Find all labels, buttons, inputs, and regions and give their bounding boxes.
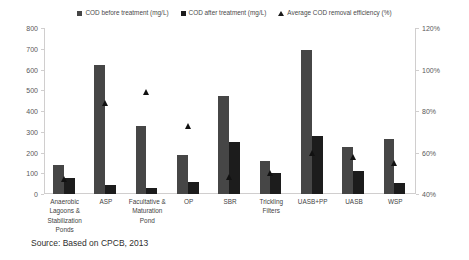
y-axis-right-tick-label: 100% <box>422 66 440 73</box>
bar-groups <box>44 28 416 194</box>
legend-triangle-icon <box>278 11 284 16</box>
bar-group <box>251 28 292 194</box>
y-axis-right-tick <box>416 111 419 112</box>
y-axis-left-tick-label: 0 <box>34 191 38 198</box>
bar-cod-after <box>353 171 364 194</box>
y-axis-right-tick <box>416 194 419 195</box>
y-axis-right-tick <box>416 70 419 71</box>
x-axis-category-label: ASP <box>85 197 126 234</box>
bar-group <box>209 28 250 194</box>
marker-removal-efficiency <box>226 174 232 180</box>
marker-removal-efficiency <box>309 150 315 156</box>
y-axis-left-tick-label: 700 <box>26 45 38 52</box>
y-axis-right-tick <box>416 153 419 154</box>
marker-removal-efficiency <box>61 176 67 182</box>
chart-plot-area: 0100200300400500600700800 40%60%80%100%1… <box>44 28 416 194</box>
bar-group <box>292 28 333 194</box>
bar-cod-after <box>312 136 323 194</box>
y-axis-left-tick-label: 100 <box>26 170 38 177</box>
legend-swatch-square-icon <box>181 11 186 16</box>
bar-group <box>333 28 374 194</box>
bar-cod-after <box>394 183 405 194</box>
bar-group <box>127 28 168 194</box>
bar-cod-after <box>188 182 199 194</box>
chart-legend: COD before treatment (mg/L) COD after tr… <box>0 10 469 16</box>
x-axis-category-label: WSP <box>375 197 416 234</box>
bar-cod-before <box>301 50 312 194</box>
y-axis-left-tick <box>41 194 44 195</box>
legend-label: Average COD removal efficiency (%) <box>287 10 391 16</box>
x-axis-category-label: UASB+PP <box>292 197 333 234</box>
bar-group <box>375 28 416 194</box>
y-axis-right-tick-label: 80% <box>422 108 436 115</box>
marker-removal-efficiency <box>350 154 356 160</box>
y-axis-left-tick-label: 200 <box>26 149 38 156</box>
x-axis-category-label: AnaerobicLagoons &StabilizationPonds <box>44 197 85 234</box>
bar-cod-before <box>260 161 271 194</box>
legend-label: COD before treatment (mg/L) <box>85 10 168 16</box>
source-note: Source: Based on CPCB, 2013 <box>31 238 148 248</box>
x-axis-category-label: TricklingFilters <box>251 197 292 234</box>
bar-cod-after <box>105 185 116 194</box>
y-axis-right-tick-label: 40% <box>422 191 436 198</box>
x-axis-category-label: UASB <box>333 197 374 234</box>
bar-group <box>44 28 85 194</box>
x-axis-category-labels: AnaerobicLagoons &StabilizationPondsASPF… <box>44 197 416 234</box>
marker-removal-efficiency <box>267 170 273 176</box>
y-axis-left-tick-label: 400 <box>26 108 38 115</box>
y-axis-right-tick <box>416 28 419 29</box>
legend-label: COD after treatment (mg/L) <box>189 10 267 16</box>
x-axis-category-label: SBR <box>209 197 250 234</box>
y-axis-left-tick-label: 600 <box>26 66 38 73</box>
y-axis-left-tick-label: 300 <box>26 128 38 135</box>
marker-removal-efficiency <box>143 89 149 95</box>
y-axis-right-tick-label: 120% <box>422 25 440 32</box>
x-axis-category-label: Facultative &MaturationPond <box>127 197 168 234</box>
bar-cod-after <box>270 173 281 194</box>
legend-item-removal-efficiency: Average COD removal efficiency (%) <box>278 10 391 16</box>
bar-cod-before <box>384 139 395 194</box>
bar-cod-before <box>177 155 188 194</box>
marker-removal-efficiency <box>391 160 397 166</box>
bar-group <box>168 28 209 194</box>
x-axis-category-label: OP <box>168 197 209 234</box>
y-axis-left-tick-label: 800 <box>26 25 38 32</box>
y-axis-right-tick-label: 60% <box>422 149 436 156</box>
legend-item-cod-after: COD after treatment (mg/L) <box>181 10 267 16</box>
bar-cod-before <box>94 65 105 194</box>
legend-swatch-square-icon <box>77 11 82 16</box>
bar-cod-after <box>146 188 157 194</box>
legend-item-cod-before: COD before treatment (mg/L) <box>77 10 168 16</box>
marker-removal-efficiency <box>185 123 191 129</box>
y-axis-left-tick-label: 500 <box>26 87 38 94</box>
marker-removal-efficiency <box>102 100 108 106</box>
bar-cod-before <box>136 126 147 194</box>
bar-cod-after <box>229 142 240 194</box>
bar-group <box>85 28 126 194</box>
